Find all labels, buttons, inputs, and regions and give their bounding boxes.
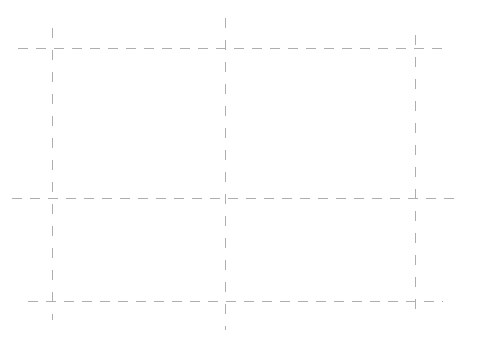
vertical-lines-group <box>53 18 416 330</box>
grid-overlay <box>0 0 477 347</box>
grid-canvas <box>0 0 477 347</box>
horizontal-lines-group <box>12 49 458 302</box>
